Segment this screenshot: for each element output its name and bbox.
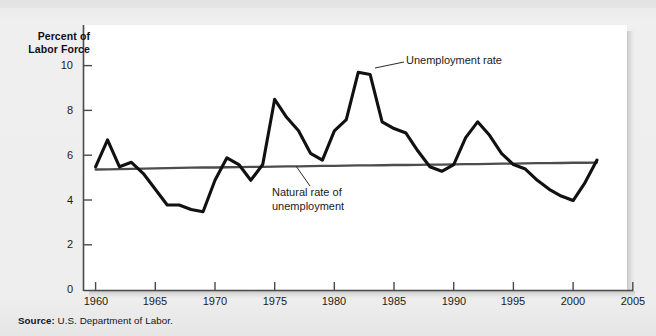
xtick-label-1970: 1970	[193, 295, 237, 307]
figure-container: Percent of Labor Force 10 8 6 4 2 0 1960…	[0, 0, 656, 336]
source-note-text: U.S. Department of Labor.	[58, 315, 173, 326]
unemployment-rate-annotation-line1: Unemployment rate	[406, 54, 502, 68]
natural-rate-annotation-line1: Natural rate of	[272, 186, 344, 200]
ytick-label-0: 0	[43, 283, 73, 295]
xtick-label-1980: 1980	[312, 295, 356, 307]
source-note-prefix: Source:	[18, 315, 55, 326]
xtick-label-1975: 1975	[253, 295, 297, 307]
ytick-label-6: 6	[43, 149, 73, 161]
natural-rate-annotation-line2: unemployment	[272, 200, 344, 214]
ytick-label-2: 2	[43, 238, 73, 250]
ytick-label-4: 4	[43, 194, 73, 206]
xtick-label-1960: 1960	[74, 295, 118, 307]
xtick-label-1985: 1985	[372, 295, 416, 307]
xtick-label-2000: 2000	[551, 295, 595, 307]
plot-area	[83, 25, 627, 291]
plot-panel-shadow-right	[627, 31, 635, 291]
unemployment-rate-annotation: Unemployment rate	[406, 54, 502, 68]
natural-rate-annotation: Natural rate of unemployment	[272, 186, 344, 213]
xtick-label-2005: 2005	[611, 295, 655, 307]
xtick-label-1995: 1995	[491, 295, 535, 307]
unemployment-chart	[0, 0, 656, 336]
y-axis-title-line2: Labor Force	[18, 43, 90, 56]
xtick-label-1965: 1965	[133, 295, 177, 307]
ytick-label-8: 8	[43, 104, 73, 116]
ytick-label-10: 10	[43, 59, 73, 71]
y-axis-title: Percent of Labor Force	[18, 30, 90, 55]
y-axis-title-line1: Percent of	[18, 30, 90, 43]
source-note: Source: U.S. Department of Labor.	[18, 315, 173, 326]
xtick-label-1990: 1990	[432, 295, 476, 307]
